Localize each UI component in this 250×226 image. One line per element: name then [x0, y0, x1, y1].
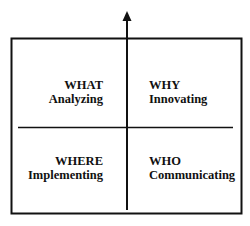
quadrant-where: WHERE Implementing: [28, 154, 103, 182]
quadrant-title: WHERE: [28, 154, 103, 168]
quadrant-subtitle: Analyzing: [49, 92, 103, 106]
quadrant-subtitle: Innovating: [149, 92, 207, 106]
arrow-head-icon: [123, 11, 132, 21]
quadrant-subtitle: Communicating: [149, 168, 235, 182]
quadrant-who: WHO Communicating: [149, 154, 235, 182]
quadrant-why: WHY Innovating: [149, 78, 207, 106]
quadrant-title: WHAT: [49, 78, 103, 92]
quadrant-subtitle: Implementing: [28, 168, 103, 182]
quadrant-title: WHO: [149, 154, 235, 168]
quadrant-title: WHY: [149, 78, 207, 92]
quadrant-what: WHAT Analyzing: [49, 78, 103, 106]
quadrant-diagram: [0, 0, 250, 226]
